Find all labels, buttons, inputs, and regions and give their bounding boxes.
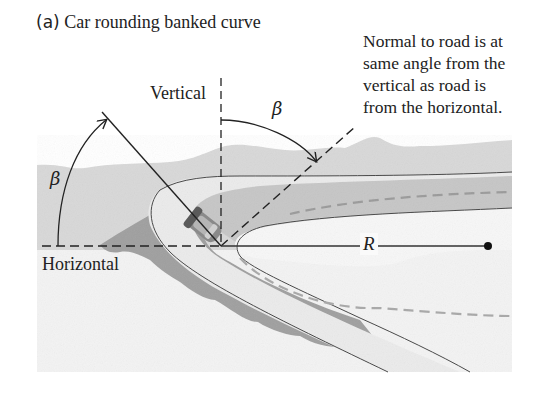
annotation-line: same angle from the	[363, 52, 548, 74]
title-text: Car rounding banked curve	[64, 12, 260, 32]
annotation-line: vertical as road is	[363, 74, 548, 96]
curve-center-dot	[484, 242, 492, 250]
panel-tag: (a)	[36, 12, 60, 32]
banked-curve-diagram: (a) Car rounding banked curve Normal to …	[0, 0, 548, 406]
radius-label: R	[360, 233, 378, 255]
vertical-label: Vertical	[150, 82, 206, 104]
angle-beta-left: β	[50, 168, 60, 189]
figure-title: (a) Car rounding banked curve	[36, 12, 261, 33]
angle-beta-top: β	[272, 98, 282, 119]
horizontal-label: Horizontal	[42, 253, 119, 275]
annotation-line: from the horizontal.	[363, 96, 548, 118]
normal-annotation: Normal to road is at same angle from the…	[363, 30, 548, 118]
annotation-line: Normal to road is at	[363, 30, 548, 52]
